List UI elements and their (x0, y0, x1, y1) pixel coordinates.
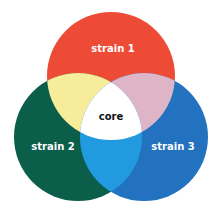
strain-3-label: strain 3 (151, 141, 194, 152)
venn-diagram: strain 1 strain 2 strain 3 core (0, 0, 216, 212)
core-label: core (99, 111, 124, 122)
strain-1-label: strain 1 (91, 43, 134, 54)
strain-2-label: strain 2 (31, 141, 74, 152)
